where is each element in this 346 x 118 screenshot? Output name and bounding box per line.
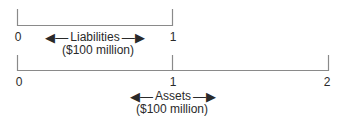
assets-tick-label-1: 1 (170, 76, 177, 89)
maturity-scale-diagram: 0 1 ◀— Liabilities —▶ ($100 million) 0 1… (0, 0, 346, 118)
liabilities-tick-label-1: 1 (170, 31, 177, 44)
liabilities-tick-label-0: 0 (15, 31, 22, 44)
liabilities-scale (18, 9, 173, 26)
assets-units: ($100 million) (136, 103, 208, 116)
liabilities-units: ($100 million) (62, 44, 134, 57)
assets-tick-label-0: 0 (16, 76, 23, 89)
assets-tick-label-2: 2 (324, 76, 331, 89)
assets-scale (18, 55, 329, 71)
